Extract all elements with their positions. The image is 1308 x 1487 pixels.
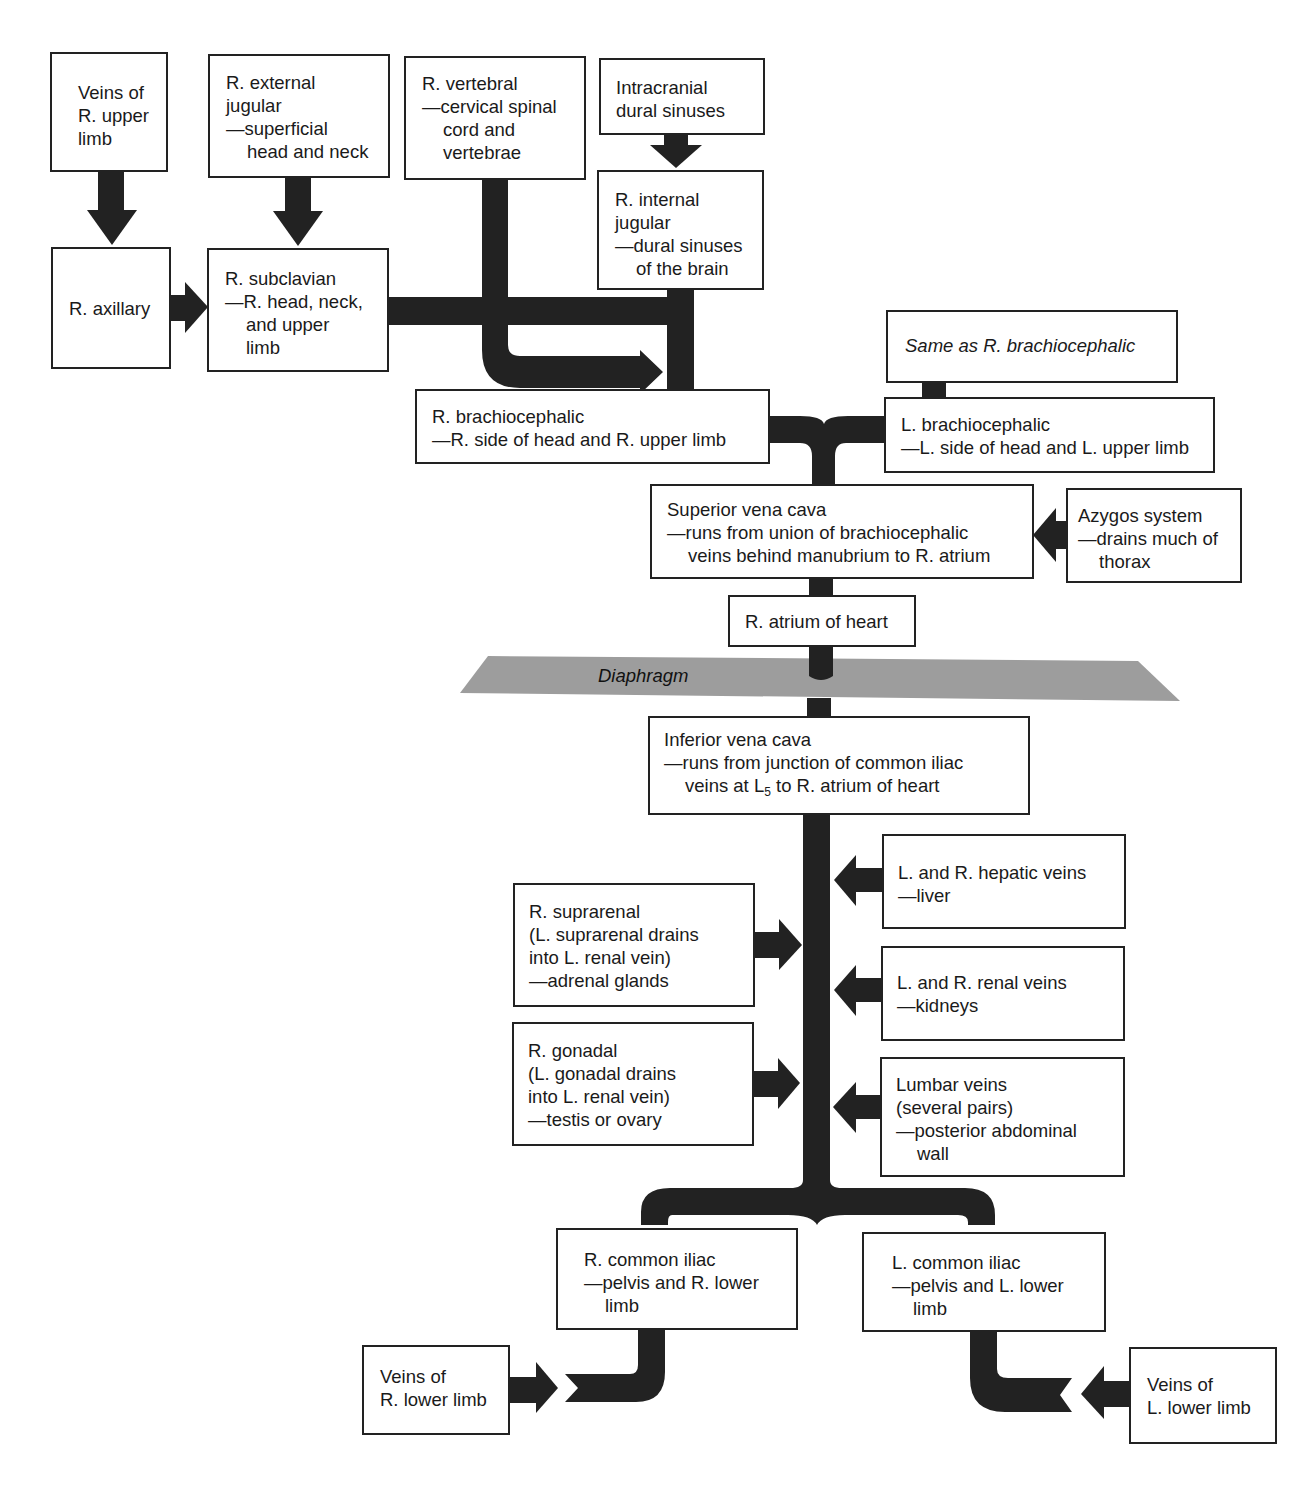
node-line: —superficial bbox=[226, 117, 388, 140]
node-line: of the brain bbox=[615, 257, 762, 280]
node-line: —testis or ovary bbox=[528, 1108, 752, 1131]
venous-flow-diagram: Diaphragm Veins of R. upper limb R. exte… bbox=[0, 0, 1308, 1487]
node-line: R. lower limb bbox=[380, 1388, 508, 1411]
node-line: —adrenal glands bbox=[529, 969, 753, 992]
node-line: L. brachiocephalic bbox=[901, 413, 1213, 436]
node-inferior-vena-cava: Inferior vena cava —runs from junction o… bbox=[648, 716, 1030, 815]
node-r-internal-jugular: R. internal jugular —dural sinuses of th… bbox=[597, 170, 764, 290]
node-line: —liver bbox=[898, 884, 1124, 907]
node-line: limb bbox=[78, 127, 166, 150]
arrow-right-icon bbox=[755, 919, 802, 970]
node-same-as-r-brachiocephalic: Same as R. brachiocephalic bbox=[886, 310, 1178, 383]
text-fragment: veins at L bbox=[685, 775, 764, 796]
node-line: into L. renal vein) bbox=[528, 1085, 752, 1108]
node-superior-vena-cava: Superior vena cava —runs from union of b… bbox=[650, 484, 1034, 579]
arrow-left-icon bbox=[1081, 1366, 1130, 1419]
arrow-left-icon bbox=[1033, 508, 1068, 562]
node-line: R. upper bbox=[78, 104, 166, 127]
arrow-right-icon bbox=[170, 282, 208, 333]
node-r-brachiocephalic: R. brachiocephalic —R. side of head and … bbox=[415, 389, 770, 464]
node-line: —runs from union of brachiocephalic bbox=[667, 521, 1032, 544]
node-line: R. suprarenal bbox=[529, 900, 753, 923]
node-line: Azygos system bbox=[1078, 504, 1240, 527]
node-line: (L. suprarenal drains bbox=[529, 923, 753, 946]
node-line: —L. side of head and L. upper limb bbox=[901, 436, 1213, 459]
node-veins-r-upper-limb: Veins of R. upper limb bbox=[50, 52, 168, 172]
node-line: Veins of bbox=[1147, 1373, 1275, 1396]
node-line: R. external bbox=[226, 71, 388, 94]
node-line: jugular bbox=[615, 211, 762, 234]
node-line: R. brachiocephalic bbox=[432, 405, 768, 428]
node-line: limb bbox=[584, 1294, 796, 1317]
node-line: Intracranial bbox=[616, 76, 763, 99]
subscript: 5 bbox=[764, 785, 771, 799]
node-line: veins behind manubrium to R. atrium bbox=[667, 544, 1032, 567]
node-azygos-system: Azygos system —drains much of thorax bbox=[1066, 488, 1242, 583]
arrow-left-icon bbox=[834, 855, 884, 906]
node-line: —R. side of head and R. upper limb bbox=[432, 428, 768, 451]
node-r-common-iliac: R. common iliac —pelvis and R. lower lim… bbox=[556, 1228, 798, 1330]
node-line: (several pairs) bbox=[896, 1096, 1123, 1119]
node-line: —runs from junction of common iliac bbox=[664, 751, 1028, 774]
node-line: (L. gonadal drains bbox=[528, 1062, 752, 1085]
node-line: into L. renal vein) bbox=[529, 946, 753, 969]
node-line: wall bbox=[896, 1142, 1123, 1165]
node-line: R. axillary bbox=[69, 297, 169, 320]
arrow-down-icon bbox=[87, 172, 137, 245]
node-line: —posterior abdominal bbox=[896, 1119, 1123, 1142]
node-r-gonadal: R. gonadal (L. gonadal drains into L. re… bbox=[512, 1022, 754, 1146]
node-line: vertebrae bbox=[422, 141, 584, 164]
node-line: —drains much of bbox=[1078, 527, 1240, 550]
node-lumbar-veins: Lumbar veins (several pairs) —posterior … bbox=[880, 1057, 1125, 1177]
node-line: jugular bbox=[226, 94, 388, 117]
node-line: R. vertebral bbox=[422, 72, 584, 95]
node-line: —pelvis and L. lower bbox=[892, 1274, 1104, 1297]
node-line: Inferior vena cava bbox=[664, 728, 1028, 751]
node-r-axillary: R. axillary bbox=[51, 247, 171, 369]
node-line: thorax bbox=[1078, 550, 1240, 573]
node-line: R. internal bbox=[615, 188, 762, 211]
node-line: limb bbox=[892, 1297, 1104, 1320]
node-line: L. common iliac bbox=[892, 1251, 1104, 1274]
arrow-left-icon bbox=[833, 1082, 882, 1133]
node-line: —dural sinuses bbox=[615, 234, 762, 257]
node-l-brachiocephalic: L. brachiocephalic —L. side of head and … bbox=[884, 397, 1215, 473]
node-line: cord and bbox=[422, 118, 584, 141]
node-line: —kidneys bbox=[897, 994, 1123, 1017]
node-line: L. and R. hepatic veins bbox=[898, 861, 1124, 884]
node-r-suprarenal: R. suprarenal (L. suprarenal drains into… bbox=[513, 883, 755, 1007]
node-veins-l-lower-limb: Veins of L. lower limb bbox=[1129, 1347, 1277, 1444]
arrow-right-icon bbox=[754, 1058, 800, 1109]
node-line: L. and R. renal veins bbox=[897, 971, 1123, 994]
node-line: and upper bbox=[225, 313, 387, 336]
node-r-vertebral: R. vertebral —cervical spinal cord and v… bbox=[404, 56, 586, 180]
node-line: R. common iliac bbox=[584, 1248, 796, 1271]
node-line: R. subclavian bbox=[225, 267, 387, 290]
node-renal-veins: L. and R. renal veins —kidneys bbox=[881, 946, 1125, 1041]
node-line: Lumbar veins bbox=[896, 1073, 1123, 1096]
node-line: L. lower limb bbox=[1147, 1396, 1275, 1419]
node-veins-r-lower-limb: Veins of R. lower limb bbox=[362, 1345, 510, 1435]
node-line: Same as R. brachiocephalic bbox=[905, 334, 1176, 357]
node-r-atrium: R. atrium of heart bbox=[728, 595, 916, 647]
node-line: R. gonadal bbox=[528, 1039, 752, 1062]
node-line: R. atrium of heart bbox=[745, 610, 914, 633]
node-line: head and neck bbox=[226, 140, 388, 163]
arrow-down-icon bbox=[650, 133, 702, 168]
node-l-common-iliac: L. common iliac —pelvis and L. lower lim… bbox=[862, 1232, 1106, 1332]
node-line: Veins of bbox=[78, 81, 166, 104]
text-fragment: to R. atrium of heart bbox=[771, 775, 940, 796]
node-line: Veins of bbox=[380, 1365, 508, 1388]
node-hepatic-veins: L. and R. hepatic veins —liver bbox=[882, 834, 1126, 929]
node-line: Superior vena cava bbox=[667, 498, 1032, 521]
node-line: —cervical spinal bbox=[422, 95, 584, 118]
node-r-subclavian: R. subclavian —R. head, neck, and upper … bbox=[207, 248, 389, 372]
node-intracranial-dural-sinuses: Intracranial dural sinuses bbox=[599, 58, 765, 135]
node-line: veins at L5 to R. atrium of heart bbox=[664, 774, 1028, 804]
node-line: limb bbox=[225, 336, 387, 359]
arrow-right-icon bbox=[510, 1362, 558, 1413]
diaphragm-label: Diaphragm bbox=[598, 665, 689, 687]
arrow-down-icon bbox=[273, 177, 323, 246]
node-r-external-jugular: R. external jugular —superficial head an… bbox=[208, 54, 390, 178]
node-line: dural sinuses bbox=[616, 99, 763, 122]
